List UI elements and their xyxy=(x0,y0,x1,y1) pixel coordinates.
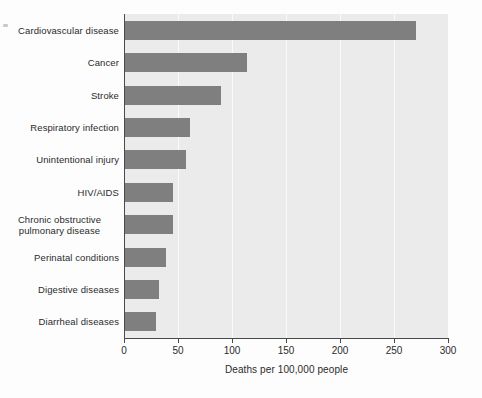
category-label: Perinatal conditions xyxy=(0,252,119,263)
category-label-line: HIV/AIDS xyxy=(0,187,119,198)
x-tick-mark xyxy=(394,338,395,343)
x-axis-title: Deaths per 100,000 people xyxy=(124,364,449,375)
category-label-line: Unintentional injury xyxy=(0,154,119,165)
category-label-line: Diarrheal diseases xyxy=(0,316,119,327)
category-label-line: Respiratory infection xyxy=(0,122,119,133)
category-label: Respiratory infection xyxy=(0,122,119,133)
x-tick-label: 0 xyxy=(121,345,127,357)
category-label-line: pulmonary disease xyxy=(0,225,119,236)
x-tick-label: 250 xyxy=(386,345,403,357)
y-axis-category-labels: Cardiovascular diseaseCancerStrokeRespir… xyxy=(0,14,119,338)
category-label: Cardiovascular disease xyxy=(0,25,119,36)
category-label: HIV/AIDS xyxy=(0,187,119,198)
x-tick-label: 50 xyxy=(172,345,183,357)
bar xyxy=(124,183,173,202)
bar xyxy=(124,86,221,105)
x-tick-label: 300 xyxy=(440,345,457,357)
x-tick-mark xyxy=(448,338,449,343)
bar xyxy=(124,215,173,234)
x-axis-ticks: 050100150200250300 xyxy=(124,338,454,358)
bar xyxy=(124,248,166,267)
bar xyxy=(124,118,190,137)
category-label: Cancer xyxy=(0,57,119,68)
category-label: Digestive diseases xyxy=(0,284,119,295)
y-axis-line xyxy=(124,14,125,339)
x-tick-mark xyxy=(124,338,125,343)
category-label: Diarrheal diseases xyxy=(0,316,119,327)
category-label: Stroke xyxy=(0,90,119,101)
category-label-line: Stroke xyxy=(0,90,119,101)
x-tick-label: 100 xyxy=(224,345,241,357)
plot-area xyxy=(124,14,448,338)
x-tick-mark xyxy=(340,338,341,343)
category-label: Chronic obstructivepulmonary disease xyxy=(0,214,119,236)
bar xyxy=(124,280,159,299)
bar xyxy=(124,21,416,40)
bar xyxy=(124,150,186,169)
x-tick-mark xyxy=(286,338,287,343)
x-tick-label: 150 xyxy=(278,345,295,357)
category-label-line: Chronic obstructive xyxy=(0,214,119,225)
bar-series xyxy=(124,14,448,338)
category-label-line: Perinatal conditions xyxy=(0,252,119,263)
category-label: Unintentional injury xyxy=(0,154,119,165)
bar xyxy=(124,53,247,72)
x-tick-label: 200 xyxy=(332,345,349,357)
x-tick-mark xyxy=(178,338,179,343)
category-label-line: Cancer xyxy=(0,57,119,68)
category-label-line: Cardiovascular disease xyxy=(0,25,119,36)
bar xyxy=(124,312,156,331)
chart-figure: Cardiovascular diseaseCancerStrokeRespir… xyxy=(0,0,482,398)
category-label-line: Digestive diseases xyxy=(0,284,119,295)
x-tick-mark xyxy=(232,338,233,343)
